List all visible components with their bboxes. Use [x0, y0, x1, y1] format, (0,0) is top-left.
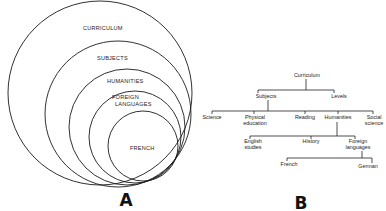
tree-node-label: French [281, 161, 298, 167]
tree-node-label: studies [244, 144, 261, 150]
tree-node-label: Reading [295, 114, 315, 120]
panel-label-b: B [295, 193, 308, 211]
tree-node-science: Science [202, 114, 221, 120]
tree-node-reading: Reading [295, 114, 315, 120]
tree-node-label: Curriculum [294, 72, 321, 78]
circle-label: HUMANITIES [107, 78, 144, 84]
tree-node-humanities: Humanities [325, 114, 352, 120]
tree-node-label: education [243, 120, 266, 126]
circle-label: CURRICULUM [83, 25, 123, 31]
tree-node-history: History [303, 138, 320, 144]
tree-connector-subjects [212, 100, 373, 114]
panel-a-nested-circles: CURRICULUMSUBJECTSHUMANITIESFOREIGNLANGU… [8, 1, 192, 187]
circle-label: LANGUAGES [115, 101, 152, 107]
tree-node-english-studies: Englishstudies [244, 138, 262, 150]
tree-node-label: History [303, 138, 320, 144]
circle-label: FRENCH [130, 145, 155, 151]
tree-connector-foreign-languages [287, 151, 372, 163]
tree-node-german: German [358, 163, 377, 169]
tree-connector-curriculum [258, 79, 334, 93]
tree-node-label: Humanities [325, 114, 352, 120]
tree-node-label: science [365, 120, 383, 126]
circle-label: FOREIGN [112, 94, 139, 100]
tree-node-foreign-languages: Foreignlanguages [346, 138, 371, 150]
figure-svg: CURRICULUMSUBJECTSHUMANITIESFOREIGNLANGU… [0, 0, 386, 211]
panel-label-a: A [119, 190, 133, 210]
tree-node-label: Levels [331, 93, 347, 99]
tree-node-label: Science [202, 114, 221, 120]
tree-node-curriculum: Curriculum [294, 72, 321, 78]
tree-node-label: Subjects [256, 93, 277, 99]
tree-node-subjects: Subjects [256, 93, 277, 99]
panel-b-tree-diagram: CurriculumSubjectsLevelsSciencePhysicale… [202, 72, 383, 169]
tree-node-social-science: Socialscience [365, 114, 383, 126]
tree-node-levels: Levels [331, 93, 347, 99]
circle-label: SUBJECTS [97, 55, 128, 61]
circle-outline [45, 41, 191, 187]
tree-node-physical-education: Physicaleducation [243, 114, 266, 126]
figure-stage: CURRICULUMSUBJECTSHUMANITIESFOREIGNLANGU… [0, 0, 386, 211]
tree-node-french: French [281, 161, 298, 167]
tree-node-label: German [358, 163, 377, 169]
circle-french: FRENCH [108, 111, 178, 181]
circle-subjects: SUBJECTS [45, 41, 191, 187]
tree-node-label: languages [346, 144, 371, 150]
circle-curriculum: CURRICULUM [8, 1, 192, 185]
